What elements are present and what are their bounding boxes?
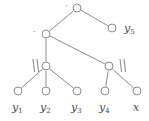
tree-node-x (133, 87, 141, 95)
leaf-label-y1: y1 (12, 102, 23, 115)
tree-node-root (73, 4, 81, 12)
leaf-label-y3: y3 (71, 102, 82, 115)
node-label-y5: y5 (124, 23, 135, 36)
tree-edge-n3l-y1 (21, 69, 42, 88)
tree-edge-n2-n3r (50, 36, 105, 64)
leaf-label-x: x (133, 102, 139, 113)
tree-edge-n3r-y4 (106, 70, 109, 86)
tree-diagram-figure: y1y2y3y4xy5·· (0, 0, 149, 121)
tree-node-y1 (14, 87, 22, 95)
tree-node-y4 (101, 87, 109, 95)
tree-node-y3 (73, 87, 81, 95)
concat-mark-left-stroke-1 (33, 59, 35, 72)
tree-node-n3l (42, 62, 50, 70)
tree-edges (21, 10, 133, 88)
tree-node-n2 (42, 30, 50, 38)
tree-edge-root-n2 (49, 11, 73, 31)
root-dot-label: · (65, 2, 68, 11)
concat-mark-left-stroke-2 (37, 59, 39, 72)
leaf-label-y2: y2 (40, 102, 51, 115)
tree-edge-n3l-y3 (50, 69, 74, 88)
leaf-label-y4: y4 (99, 102, 110, 115)
tree-node-n3r (105, 62, 113, 70)
concat-mark-right-stroke-2 (124, 59, 126, 72)
tree-edge-n3r-x (112, 69, 133, 88)
level2-dot-label: · (33, 28, 36, 37)
tree-edge-root-y5 (81, 10, 108, 26)
concat-mark-right-stroke-1 (120, 59, 122, 72)
tree-node-y2 (42, 87, 50, 95)
tree-node-y5 (108, 24, 116, 32)
